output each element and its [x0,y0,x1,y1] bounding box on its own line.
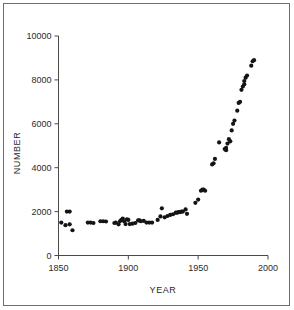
y-tick-label: 8000 [31,75,51,85]
x-axis-title: YEAR [150,285,177,295]
data-point [249,64,253,68]
data-point [196,197,200,201]
data-points [59,58,256,232]
y-tick-labels: 0200040006000800010000 [26,31,51,261]
data-point [126,218,130,222]
data-point [63,223,67,227]
data-point [104,219,108,223]
data-point [232,118,236,122]
y-tick-label: 6000 [31,119,51,129]
figure-frame: 0200040006000800010000 1850190019502000 … [0,0,294,310]
y-tick-label: 4000 [31,163,51,173]
data-point [158,214,162,218]
data-point [217,140,221,144]
y-tick-marks [55,36,59,256]
data-point [235,109,239,113]
chart-svg: 0200040006000800010000 1850190019502000 … [0,0,294,310]
data-point [91,221,95,225]
x-tick-label: 2000 [258,263,278,273]
scatter-plot: 0200040006000800010000 1850190019502000 … [0,0,294,310]
data-point [228,139,232,143]
data-point [160,206,164,210]
y-tick-label: 0 [46,251,51,261]
data-point [156,218,160,222]
x-tick-labels: 1850190019502000 [48,263,278,273]
y-tick-label: 2000 [31,207,51,217]
x-tick-label: 1900 [118,263,138,273]
data-point [68,210,72,214]
data-point [224,146,228,150]
data-point [238,100,242,104]
x-tick-marks [59,256,269,260]
x-tick-label: 1850 [48,263,68,273]
data-point [59,220,63,224]
data-point [184,207,188,211]
y-tick-label: 10000 [26,31,51,41]
data-point [245,73,249,77]
data-point [211,161,215,165]
data-point [150,220,154,224]
data-point [230,128,234,132]
data-point [252,58,256,62]
data-point [213,157,217,161]
data-point [68,222,72,226]
data-point [70,228,74,232]
x-tick-label: 1950 [188,263,208,273]
y-axis-title: NUMBER [12,132,22,175]
data-point [203,189,207,193]
data-point [185,212,189,216]
data-point [123,222,127,226]
data-point [193,201,197,205]
